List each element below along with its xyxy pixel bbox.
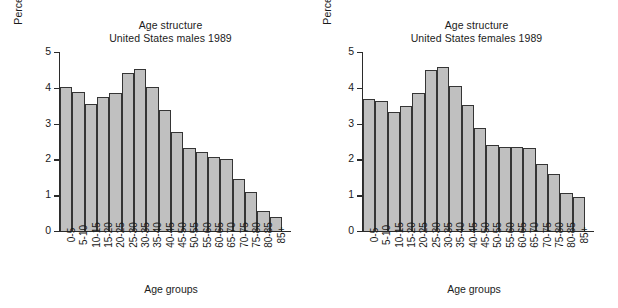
bar-35-40[interactable] — [146, 87, 158, 231]
bar-45-50[interactable] — [474, 128, 486, 231]
y-axis-label-females: Percent of population — [321, 0, 339, 68]
bar-40-45[interactable] — [462, 105, 474, 231]
x-tick-slot: 50-55 — [486, 235, 498, 279]
bar-55-60[interactable] — [499, 147, 511, 231]
bar-series-females — [363, 52, 585, 231]
bar-55-60[interactable] — [196, 152, 208, 231]
bar-10-15[interactable] — [85, 104, 97, 231]
bar-slot — [462, 52, 474, 231]
x-tick-slot: 80-85 — [257, 235, 269, 279]
bar-65-70[interactable] — [220, 159, 232, 231]
x-tick-slot: 60-65 — [511, 235, 523, 279]
bar-slot — [412, 52, 424, 231]
x-tick-slot: 25-30 — [122, 235, 134, 279]
bar-20-25[interactable] — [109, 93, 121, 231]
bar-35-40[interactable] — [449, 86, 461, 231]
plot-area-males: 543210 — [60, 52, 282, 231]
y-tick-label: 2 — [45, 152, 51, 164]
bar-slot — [548, 52, 560, 231]
x-tick-slot: 65-70 — [523, 235, 535, 279]
x-tick-labels-males: 0-55-1010-1515-2020-2525-3030-3535-4040-… — [60, 235, 282, 279]
bar-slot — [220, 52, 232, 231]
bar-15-20[interactable] — [400, 106, 412, 231]
x-tick-slot: 85+ — [573, 235, 585, 279]
x-tick-slot: 30-35 — [134, 235, 146, 279]
bar-slot — [122, 52, 134, 231]
bar-slot — [183, 52, 195, 231]
bar-slot — [486, 52, 498, 231]
bar-slot — [536, 52, 548, 231]
bar-5-10[interactable] — [72, 92, 84, 231]
bar-slot — [270, 52, 282, 231]
bar-40-45[interactable] — [159, 110, 171, 231]
bar-slot — [560, 52, 572, 231]
bar-65-70[interactable] — [523, 148, 535, 231]
y-tick-label: 1 — [348, 188, 354, 200]
bar-slot — [499, 52, 511, 231]
bar-30-35[interactable] — [437, 67, 449, 231]
bar-45-50[interactable] — [171, 132, 183, 231]
y-tick-label: 0 — [348, 224, 354, 236]
y-tick-label: 5 — [348, 45, 354, 57]
chart-panel-males: Age structure United States males 1989 P… — [0, 0, 309, 308]
bar-slot — [474, 52, 486, 231]
bar-5-10[interactable] — [375, 101, 387, 231]
bar-slot — [425, 52, 437, 231]
x-tick-slot: 70-75 — [536, 235, 548, 279]
x-axis-label-females: Age groups — [363, 283, 585, 295]
bar-50-55[interactable] — [183, 148, 195, 231]
chart-title-females: Age structure United States females 1989 — [309, 19, 618, 45]
x-tick-slot: 80-85 — [560, 235, 572, 279]
chart-title-line1: Age structure — [32, 19, 309, 32]
plot-area-females: 543210 — [363, 52, 585, 231]
chart-title-line2: United States females 1989 — [335, 32, 618, 45]
figure-canvas: Age structure United States males 1989 P… — [0, 0, 618, 308]
bar-0-5[interactable] — [60, 87, 72, 231]
y-tick-label: 3 — [45, 117, 51, 129]
y-tick-0: 0 — [54, 231, 60, 232]
bar-slot — [573, 52, 585, 231]
x-tick-label-85+: 85+ — [579, 227, 590, 244]
bar-slot — [134, 52, 146, 231]
y-tick-label: 0 — [45, 224, 51, 236]
x-tick-slot: 45-50 — [171, 235, 183, 279]
x-tick-slot: 35-40 — [449, 235, 461, 279]
x-tick-label-85+: 85+ — [276, 227, 287, 244]
bar-slot — [196, 52, 208, 231]
bar-50-55[interactable] — [486, 145, 498, 231]
x-tick-slot: 85+ — [270, 235, 282, 279]
bar-25-30[interactable] — [122, 73, 134, 231]
bar-slot — [159, 52, 171, 231]
x-tick-slot: 15-20 — [400, 235, 412, 279]
bar-0-5[interactable] — [363, 99, 375, 231]
x-tick-slot: 40-45 — [462, 235, 474, 279]
bar-15-20[interactable] — [97, 97, 109, 231]
bar-20-25[interactable] — [412, 93, 424, 231]
y-tick-label: 5 — [45, 45, 51, 57]
bar-30-35[interactable] — [134, 69, 146, 231]
bar-10-15[interactable] — [388, 112, 400, 231]
bar-slot — [85, 52, 97, 231]
bar-slot — [257, 52, 269, 231]
x-tick-slot: 35-40 — [146, 235, 158, 279]
bar-60-65[interactable] — [511, 147, 523, 231]
x-tick-slot: 55-60 — [196, 235, 208, 279]
x-tick-slot: 75-80 — [245, 235, 257, 279]
x-tick-slot: 15-20 — [97, 235, 109, 279]
bar-slot — [97, 52, 109, 231]
bar-slot — [245, 52, 257, 231]
y-tick-label: 2 — [348, 152, 354, 164]
x-tick-slot: 0-5 — [60, 235, 72, 279]
x-tick-slot: 5-10 — [72, 235, 84, 279]
bar-slot — [233, 52, 245, 231]
x-tick-labels-females: 0-55-1010-1515-2020-2525-3030-3535-4040-… — [363, 235, 585, 279]
bar-series-males — [60, 52, 282, 231]
bar-slot — [388, 52, 400, 231]
x-tick-slot: 25-30 — [425, 235, 437, 279]
bar-25-30[interactable] — [425, 70, 437, 231]
bar-60-65[interactable] — [208, 157, 220, 231]
bar-slot — [72, 52, 84, 231]
bar-slot — [171, 52, 183, 231]
bar-slot — [511, 52, 523, 231]
y-axis-label-males: Percent of population — [12, 0, 30, 68]
